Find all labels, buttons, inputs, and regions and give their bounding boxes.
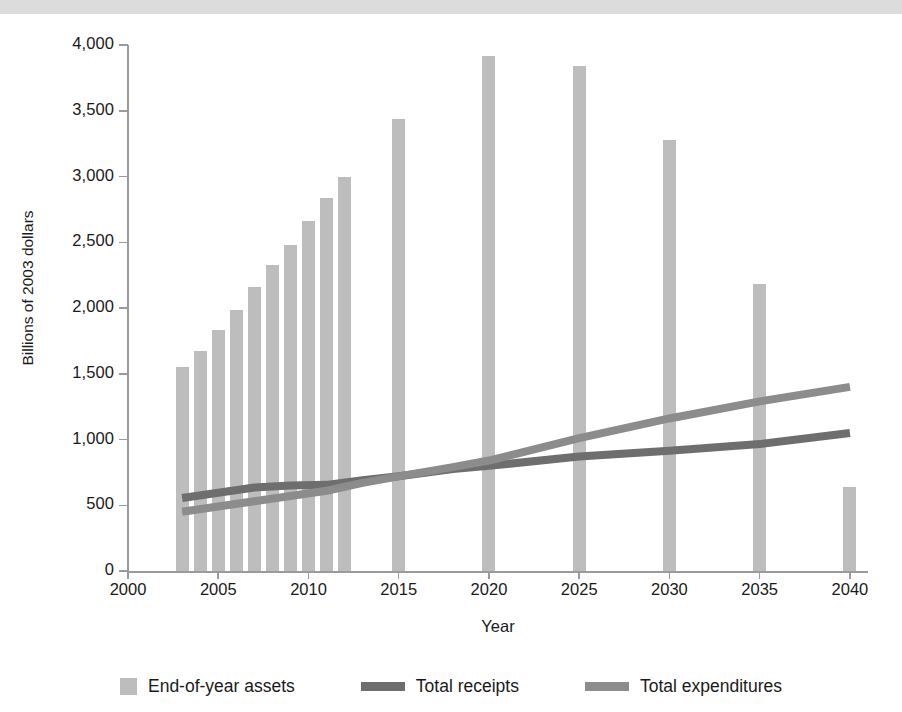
y-axis-tick — [119, 110, 128, 112]
x-axis-title: Year — [128, 617, 868, 636]
x-axis-tick — [217, 571, 219, 579]
y-axis-tick — [119, 373, 128, 375]
x-axis-tick — [398, 571, 400, 579]
x-axis-tick-label: 2035 — [720, 580, 800, 599]
x-axis-tick — [578, 571, 580, 579]
legend-line-swatch-icon — [585, 682, 629, 691]
x-axis-tick-label: 2030 — [629, 580, 709, 599]
x-axis-tick-label: 2040 — [810, 580, 890, 599]
y-axis-title: Billions of 2003 dollars — [19, 168, 37, 408]
y-axis-tick-label: 1,000 — [42, 429, 114, 448]
legend-square-swatch-icon — [120, 678, 137, 695]
x-axis-tick — [308, 571, 310, 579]
legend-item[interactable]: End-of-year assets — [120, 676, 295, 697]
legend-label: Total receipts — [416, 676, 519, 697]
x-axis-tick-label: 2025 — [539, 580, 619, 599]
y-axis-tick-label: 1,500 — [42, 363, 114, 382]
x-axis-tick-label: 2010 — [268, 580, 348, 599]
legend-item[interactable]: Total expenditures — [585, 676, 782, 697]
x-axis-tick-label: 2005 — [178, 580, 258, 599]
y-axis-tick-label: 0 — [42, 560, 114, 579]
y-axis-tick-label: 500 — [42, 494, 114, 513]
y-axis-tick — [119, 439, 128, 441]
line-series — [182, 433, 850, 498]
lines-layer — [128, 45, 868, 571]
y-axis-tick-label: 2,500 — [42, 231, 114, 250]
y-axis-tick-label: 3,000 — [42, 166, 114, 185]
y-axis-tick — [119, 570, 128, 572]
x-axis-tick — [849, 571, 851, 579]
legend-item[interactable]: Total receipts — [361, 676, 519, 697]
legend-label: Total expenditures — [640, 676, 782, 697]
legend-line-swatch-icon — [361, 682, 405, 691]
y-axis-tick-labels: 05001,0001,5002,0002,5003,0003,5004,000 — [34, 14, 114, 712]
x-axis-line — [127, 571, 868, 573]
y-axis-tick-label: 4,000 — [42, 34, 114, 53]
chart-figure: 05001,0001,5002,0002,5003,0003,5004,000 … — [0, 14, 902, 712]
plot-area — [128, 45, 868, 571]
chart-legend: End-of-year assetsTotal receiptsTotal ex… — [0, 669, 902, 703]
x-axis-tick-label: 2020 — [449, 580, 529, 599]
y-axis-tick — [119, 242, 128, 244]
y-axis-tick — [119, 505, 128, 507]
x-axis-tick-label: 2000 — [88, 580, 168, 599]
y-axis-tick-label: 3,500 — [42, 100, 114, 119]
y-axis-tick-label: 2,000 — [42, 297, 114, 316]
page-top-band — [0, 0, 902, 14]
legend-label: End-of-year assets — [148, 676, 295, 697]
x-axis-tick — [759, 571, 761, 579]
y-axis-tick — [119, 44, 128, 46]
line-series — [182, 387, 850, 512]
x-axis-tick — [127, 571, 129, 579]
y-axis-tick — [119, 307, 128, 309]
x-axis-tick — [669, 571, 671, 579]
x-axis-tick-label: 2015 — [359, 580, 439, 599]
y-axis-tick — [119, 176, 128, 178]
x-axis-tick — [488, 571, 490, 579]
